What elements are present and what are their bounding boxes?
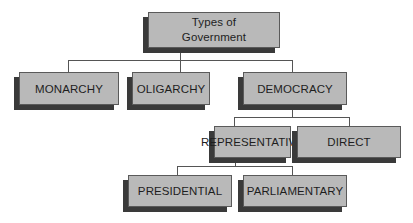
connector-to-presidential xyxy=(177,166,178,175)
connector-to-representative xyxy=(234,117,235,126)
node-oligarchy: OLIGARCHY xyxy=(132,72,210,105)
node-label: DEMOCRACY xyxy=(257,82,333,96)
connector-to-parliamentary xyxy=(292,166,293,175)
node-direct: DIRECT xyxy=(297,126,401,158)
connector-to-direct xyxy=(349,117,350,126)
node-label: PARLIAMENTARY xyxy=(247,184,344,198)
node-label: DIRECT xyxy=(327,135,370,149)
connector-root-down xyxy=(180,48,181,60)
node-presidential: PRESIDENTIAL xyxy=(128,175,232,207)
node-label: MONARCHY xyxy=(35,82,103,96)
connector-representative-down xyxy=(235,158,236,166)
connector-democracy-down xyxy=(292,105,293,117)
government-types-diagram: Types of Government MONARCHY OLIGARCHY D… xyxy=(0,0,413,223)
node-label: PRESIDENTIAL xyxy=(138,184,222,198)
node-label: OLIGARCHY xyxy=(137,82,206,96)
root-label-line2: Government xyxy=(182,30,246,45)
node-label: REPRESENTATIVE xyxy=(201,135,304,149)
connector-to-monarchy xyxy=(68,60,69,72)
connector-representative-bar xyxy=(177,166,293,167)
connector-to-democracy xyxy=(292,60,293,72)
node-representative: REPRESENTATIVE xyxy=(214,126,291,158)
connector-democracy-bar xyxy=(234,117,350,118)
root-label-line1: Types of xyxy=(192,15,236,30)
node-monarchy: MONARCHY xyxy=(19,72,119,105)
connector-to-oligarchy xyxy=(180,60,181,72)
node-democracy: DEMOCRACY xyxy=(243,72,347,105)
node-types-of-government: Types of Government xyxy=(148,12,280,48)
node-parliamentary: PARLIAMENTARY xyxy=(243,175,347,207)
